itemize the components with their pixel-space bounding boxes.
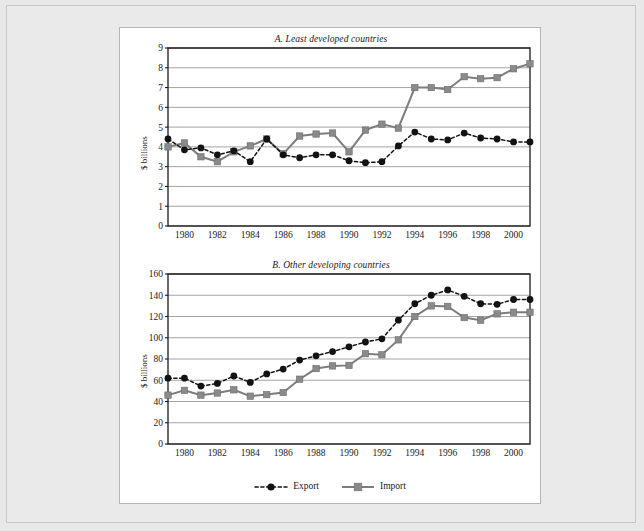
export-data-point [527, 139, 534, 146]
import-data-point [445, 86, 451, 92]
x-tick-label: 1988 [307, 230, 326, 240]
import-data-point [280, 389, 286, 395]
y-tick-label: 120 [149, 312, 164, 322]
export-data-point [280, 151, 287, 158]
export-data-point [296, 154, 303, 161]
import-data-point [165, 392, 171, 398]
y-tick-label: 160 [149, 269, 164, 279]
x-tick-label: 1992 [372, 230, 391, 240]
import-data-point [445, 303, 451, 309]
export-data-point [527, 296, 534, 303]
x-tick-label: 2000 [504, 230, 523, 240]
import-data-point [198, 154, 204, 160]
export-data-point [247, 379, 254, 386]
export-data-point [494, 301, 501, 308]
export-data-point [280, 366, 287, 373]
import-data-point [214, 159, 220, 165]
import-data-point [264, 391, 270, 397]
export-data-point [362, 159, 369, 166]
import-data-point [379, 352, 385, 358]
export-data-point [214, 151, 221, 158]
export-data-point [247, 158, 254, 165]
x-tick-label: 1996 [438, 448, 457, 458]
export-data-point [362, 339, 369, 346]
export-data-point [165, 136, 172, 143]
x-tick-label: 1988 [307, 448, 326, 458]
y-tick-label: 1 [158, 202, 163, 212]
export-data-point [296, 357, 303, 364]
import-data-point [296, 133, 302, 139]
chart-a-container: A. Least developed countries $ billions … [120, 30, 542, 260]
import-data-point [412, 313, 418, 319]
import-data-point [494, 74, 500, 80]
import-data-point [395, 337, 401, 343]
x-tick-label: 1990 [340, 230, 359, 240]
export-data-point [395, 143, 402, 150]
y-tick-label: 6 [158, 103, 163, 113]
x-tick-label: 1980 [175, 230, 194, 240]
import-data-point [165, 144, 171, 150]
export-data-point [477, 300, 484, 307]
export-data-point [461, 293, 468, 300]
y-tick-label: 60 [154, 376, 164, 386]
export-data-point [428, 136, 435, 143]
export-data-point [329, 348, 336, 355]
export-data-point [379, 335, 386, 342]
export-data-point [263, 370, 270, 377]
legend-item-export: Export [254, 481, 319, 493]
y-tick-label: 2 [158, 182, 163, 192]
import-data-point [181, 387, 187, 393]
legend-import-swatch [341, 481, 375, 493]
x-tick-label: 1984 [241, 448, 260, 458]
export-data-point [477, 135, 484, 142]
import-data-point [510, 66, 516, 72]
export-data-point [165, 375, 172, 382]
chart-a-ylabel: $ billions [139, 136, 149, 170]
import-data-point [346, 362, 352, 368]
import-data-point [362, 127, 368, 133]
import-data-point [412, 84, 418, 90]
import-data-point [461, 73, 467, 79]
import-data-point [214, 390, 220, 396]
x-tick-label: 1998 [471, 230, 490, 240]
import-data-point [329, 363, 335, 369]
import-data-point [313, 131, 319, 137]
import-data-point [527, 61, 533, 67]
export-data-point [379, 158, 386, 165]
import-data-point [329, 130, 335, 136]
export-data-point [428, 292, 435, 299]
import-data-point [461, 314, 467, 320]
y-tick-label: 80 [154, 354, 164, 364]
import-data-point [395, 125, 401, 131]
y-tick-label: 3 [158, 162, 163, 172]
export-data-point [313, 352, 320, 359]
export-data-point [313, 151, 320, 158]
y-tick-label: 8 [158, 63, 163, 73]
import-data-point [477, 75, 483, 81]
export-data-point [181, 146, 188, 153]
y-tick-label: 4 [158, 142, 163, 152]
chart-a-plot: $ billions 01234567891980198219841986198… [120, 30, 542, 260]
y-tick-label: 40 [154, 397, 164, 407]
import-data-point [379, 121, 385, 127]
x-tick-label: 1986 [274, 448, 293, 458]
y-tick-label: 9 [158, 43, 163, 53]
import-data-point [296, 376, 302, 382]
import-data-point [247, 143, 253, 149]
import-data-point [231, 387, 237, 393]
import-data-point [346, 149, 352, 155]
export-data-point [510, 139, 517, 146]
export-data-point [395, 317, 402, 324]
import-data-point [181, 140, 187, 146]
import-data-point [198, 392, 204, 398]
legend-export-swatch [254, 481, 288, 493]
export-data-point [214, 380, 221, 387]
x-tick-label: 1984 [241, 230, 260, 240]
y-tick-label: 7 [158, 83, 163, 93]
import-data-point [247, 393, 253, 399]
import-data-point [477, 317, 483, 323]
x-tick-label: 1990 [340, 448, 359, 458]
import-data-point [527, 309, 533, 315]
y-tick-label: 20 [154, 418, 164, 428]
x-tick-label: 1986 [274, 230, 293, 240]
